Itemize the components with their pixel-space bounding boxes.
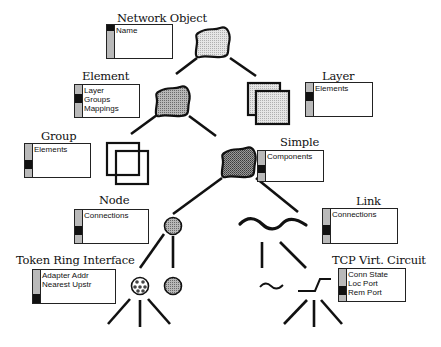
class-box-token-ring-interface: Adapter Addr Nearest Upstr xyxy=(32,269,116,304)
attribute: Rem Port xyxy=(348,288,388,297)
class-box-link: Connections xyxy=(322,208,398,244)
attribute: Components xyxy=(267,152,312,161)
class-attributes: Name xyxy=(116,26,137,35)
class-box-group: Elements xyxy=(24,143,91,178)
link-wave-icon xyxy=(240,219,306,229)
class-box-node: Connections xyxy=(74,209,149,244)
class-title-node: Node xyxy=(99,193,129,207)
class-attributes: Connections xyxy=(84,211,128,220)
group-squares-icon xyxy=(107,143,148,184)
class-sidebar xyxy=(306,83,314,116)
class-title-simple: Simple xyxy=(280,135,319,149)
attribute: Nearest Upstr xyxy=(42,280,91,289)
token-ring-circle-icon xyxy=(132,278,149,295)
class-attributes: Connections xyxy=(332,210,376,219)
attribute: Conn State xyxy=(348,270,388,279)
class-box-element: Layer Groups Mappings xyxy=(74,84,140,118)
attribute: Connections xyxy=(332,210,376,219)
simple-blob-icon xyxy=(222,147,256,177)
class-sidebar xyxy=(75,85,83,117)
class-attributes: Adapter Addr Nearest Upstr xyxy=(42,271,91,289)
tcp-zigzag-icon xyxy=(298,279,331,291)
class-title-tcp-virt-circuit: TCP Virt. Circuit xyxy=(332,253,426,267)
attribute: Loc Port xyxy=(348,279,388,288)
class-title-element: Element xyxy=(82,69,129,83)
attribute: Name xyxy=(116,26,137,35)
attribute: Layer xyxy=(84,86,119,95)
attribute: Elements xyxy=(315,84,348,93)
class-hierarchy-diagram: Network Object Name Element Layer Groups… xyxy=(0,0,441,347)
attribute: Groups xyxy=(84,95,119,104)
class-sidebar xyxy=(25,144,33,177)
class-attributes: Layer Groups Mappings xyxy=(84,86,119,113)
class-sidebar xyxy=(75,210,83,243)
class-box-network-object: Name xyxy=(106,24,173,59)
class-sidebar xyxy=(33,270,41,303)
class-title-network-object: Network Object xyxy=(117,11,207,25)
class-title-layer: Layer xyxy=(322,69,354,83)
layer-squares-icon xyxy=(248,83,289,124)
tilde-link-icon xyxy=(260,284,283,289)
class-sidebar xyxy=(258,151,266,181)
class-title-token-ring-interface: Token Ring Interface xyxy=(16,253,135,267)
class-sidebar xyxy=(339,269,347,301)
class-box-tcp-virt-circuit: Conn State Loc Port Rem Port xyxy=(338,268,406,302)
class-attributes: Elements xyxy=(34,145,67,154)
class-sidebar xyxy=(107,25,115,58)
attribute: Adapter Addr xyxy=(42,271,91,280)
class-box-layer: Elements xyxy=(305,82,373,117)
node-circle-child-icon xyxy=(165,278,182,295)
class-attributes: Elements xyxy=(315,84,348,93)
attribute: Mappings xyxy=(84,104,119,113)
class-attributes: Conn State Loc Port Rem Port xyxy=(348,270,388,297)
network-object-blob-icon xyxy=(196,27,230,57)
attribute: Elements xyxy=(34,145,67,154)
attribute: Connections xyxy=(84,211,128,220)
class-title-group: Group xyxy=(41,129,76,143)
class-sidebar xyxy=(323,209,331,243)
class-title-link: Link xyxy=(356,194,381,208)
node-circle-icon xyxy=(165,218,182,235)
class-attributes: Components xyxy=(267,152,312,161)
element-blob-icon xyxy=(156,86,190,116)
class-box-simple: Components xyxy=(257,150,324,182)
